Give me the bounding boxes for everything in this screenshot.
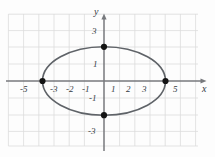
x-axis-label: x <box>202 84 206 94</box>
x-tick-label--2: -2 <box>66 85 74 94</box>
x-tick-label--5: -5 <box>20 85 28 94</box>
point-bottom-covertex <box>101 112 107 118</box>
x-tick-label-2: 2 <box>126 85 131 94</box>
x-tick-label--3: -3 <box>50 85 58 94</box>
point-left-vertex <box>39 78 45 84</box>
y-tick-label--1: -1 <box>89 94 97 103</box>
grid-lines <box>8 14 198 146</box>
ellipse-plot <box>0 0 215 157</box>
y-tick-label-1: 1 <box>93 60 98 69</box>
x-tick-label-5: 5 <box>173 85 178 94</box>
figure-canvas: -5 -3 -2 -1 1 2 3 5 3 1 -1 -3 y x <box>0 0 215 157</box>
x-tick-label-3: 3 <box>142 85 147 94</box>
axis-arrowheads <box>101 14 206 84</box>
y-axis-label: y <box>94 7 98 17</box>
y-tick-label--3: -3 <box>88 127 96 136</box>
x-tick-label-1: 1 <box>111 85 116 94</box>
point-top-covertex <box>101 44 107 50</box>
point-right-vertex <box>162 78 168 84</box>
y-tick-label-3: 3 <box>92 27 97 36</box>
